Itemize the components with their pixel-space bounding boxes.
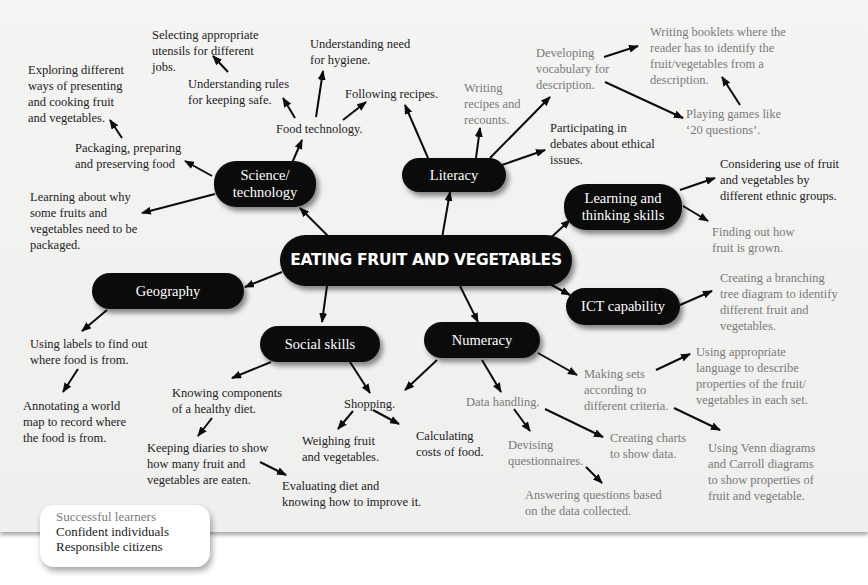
item-shopping: Shopping. (344, 396, 395, 412)
item-hygiene: Understanding need for hygiene. (310, 36, 410, 68)
node-ict-capability: ICT capability (566, 288, 680, 325)
item-playing-games: Playing games like ‘20 questions’. (686, 106, 781, 138)
legend-successful-learners: Successful learners (56, 509, 210, 524)
item-devising-questionnaires: Devising questionnaires. (508, 437, 583, 469)
item-evaluating-diet: Evaluating diet and knowing how to impro… (282, 478, 421, 510)
item-writing-recipes: Writing recipes and recounts. (464, 80, 521, 128)
item-weighing: Weighing fruit and vegetables. (302, 433, 379, 465)
item-branching-tree: Creating a branching tree diagram to ide… (720, 270, 838, 334)
node-learning-thinking: Learning and thinking skills (564, 184, 682, 230)
item-rules-safe: Understanding rules for keeping safe. (188, 76, 289, 108)
item-calculating-costs: Calculating costs of food. (416, 428, 484, 460)
item-learning-why: Learning about why some fruits and veget… (30, 189, 137, 253)
node-geography: Geography (92, 273, 244, 309)
item-annotating-map: Annotating a world map to record where t… (23, 398, 126, 446)
item-creating-charts: Creating charts to show data. (610, 430, 686, 462)
node-science-technology: Science/ technology (214, 161, 316, 207)
node-numeracy: Numeracy (424, 322, 540, 358)
item-ethnic-groups: Considering use of fruit and vegetables … (720, 156, 839, 204)
item-data-handling: Data handling. (466, 394, 540, 410)
item-finding-grown: Finding out how fruit is grown. (712, 224, 795, 256)
item-selecting-utensils: Selecting appropriate utensils for diffe… (152, 27, 259, 75)
item-using-labels: Using labels to find out where food is f… (30, 336, 147, 368)
legend-confident-individuals: Confident individuals (56, 524, 210, 539)
central-topic: EATING FRUIT AND VEGETABLES (280, 235, 572, 286)
item-developing-vocabulary: Developing vocabulary for description. (536, 45, 609, 93)
legend-box: Successful learners Confident individual… (40, 505, 210, 567)
item-packaging: Packaging, preparing and preserving food (75, 140, 181, 172)
item-keeping-diaries: Keeping diaries to show how many fruit a… (147, 440, 268, 488)
node-social-skills: Social skills (260, 326, 380, 362)
item-knowing-components: Knowing components of a healthy diet. (172, 385, 282, 417)
item-making-sets: Making sets according to different crite… (584, 366, 668, 414)
node-literacy: Literacy (402, 158, 506, 192)
item-following-recipes: Following recipes. (345, 86, 438, 102)
item-participating-debates: Participating in debates about ethical i… (550, 120, 655, 168)
item-exploring: Exploring different ways of presenting a… (28, 62, 124, 126)
item-writing-booklets: Writing booklets where the reader has to… (650, 24, 786, 88)
item-food-technology: Food technology. (276, 121, 363, 137)
item-appropriate-language: Using appropriate language to describe p… (696, 344, 808, 408)
item-answering-questions: Answering questions based on the data co… (525, 487, 662, 519)
legend-responsible-citizens: Responsible citizens (56, 539, 210, 554)
item-venn-carroll: Using Venn diagrams and Carroll diagrams… (708, 440, 815, 504)
